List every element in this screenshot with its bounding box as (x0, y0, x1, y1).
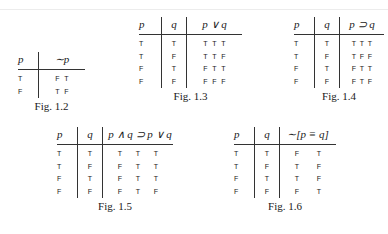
cell-p: T (57, 161, 78, 174)
cell-value: T (210, 51, 219, 64)
cell-q: F (78, 161, 103, 174)
cell-q: T (315, 63, 340, 76)
cell-value: F (366, 76, 374, 89)
truth-table-fig-1-3: p q p ∨ q T T TTT T F TTF F T FTT F F FF… (139, 17, 242, 102)
table-row: F TF (18, 86, 85, 99)
truth-table: p q p ⊃ q T T TTT T F TFF F T FTT F F FT… (294, 17, 384, 88)
cell-p: F (234, 173, 255, 186)
cell-value: T (308, 186, 330, 199)
truth-table-fig-1-5: p q p ∧ q ⊃ p ∨ q T T TTT T F FTT F T FT… (57, 127, 173, 212)
cell-q: T (162, 63, 187, 76)
cell-p: F (139, 63, 162, 76)
header-result: ∼[p ≡ q] (280, 127, 337, 145)
cell-value: F (358, 51, 366, 64)
header-p: p (139, 17, 162, 35)
cell-value: F (350, 63, 358, 76)
cell-value: T (219, 38, 228, 51)
cell-result: FTT (103, 161, 174, 174)
truth-table: p q p ∨ q T T TTT T F TTF F T FTT F F FF… (139, 17, 242, 88)
table-row: F F FFF (139, 76, 242, 89)
cell-value: T (350, 51, 358, 64)
cell-value: T (53, 86, 62, 99)
cell-p: F (57, 186, 78, 199)
page-edge-line (0, 9, 388, 10)
cell-value: T (366, 38, 374, 51)
truth-table-fig-1-6: p q ∼[p ≡ q] T T FT T F TF F T TF F F FT… (234, 127, 336, 212)
cell-p: F (294, 76, 315, 89)
figure-caption: Fig. 1.4 (294, 90, 384, 102)
cell-value: T (286, 173, 308, 186)
cell-value: F (147, 186, 165, 199)
cell-result: TTF (187, 51, 243, 64)
cell-value: F (366, 51, 374, 64)
figure-caption: Fig. 1.5 (57, 200, 173, 212)
cell-result: FTT (187, 63, 243, 76)
header-q: q (315, 17, 340, 35)
cell-value: T (129, 186, 147, 199)
cell-value: F (308, 161, 330, 174)
header-q: q (255, 127, 280, 145)
cell-value: F (219, 76, 228, 89)
cell-value: T (129, 148, 147, 161)
cell-value: T (147, 161, 165, 174)
table-row: T T TTT (294, 35, 384, 51)
cell-value: T (358, 38, 366, 51)
cell-q: T (78, 145, 103, 161)
cell-value: T (286, 161, 308, 174)
cell-value: T (308, 148, 330, 161)
figure-caption: Fig. 1.6 (234, 200, 336, 212)
table-row: F F FTF (57, 186, 173, 199)
table-row: F T FTT (294, 63, 384, 76)
cell-value: T (129, 161, 147, 174)
cell-result: TTT (103, 145, 174, 161)
cell-p: T (234, 145, 255, 161)
cell-p: T (294, 35, 315, 51)
header-result: p ∧ q ⊃ p ∨ q (103, 127, 174, 145)
table-row: F F FTF (294, 76, 384, 89)
cell-result: FTT (340, 63, 385, 76)
cell-value: F (111, 161, 129, 174)
table-row: T F TTF (139, 51, 242, 64)
cell-q: F (255, 161, 280, 174)
cell-p: T (234, 161, 255, 174)
cell-value: F (286, 186, 308, 199)
cell-value: T (147, 148, 165, 161)
table-row: F T TF (234, 173, 336, 186)
cell-result: FTF (103, 186, 174, 199)
cell-q: F (162, 51, 187, 64)
cell-value: T (366, 63, 374, 76)
cell-p: T (139, 51, 162, 64)
cell-p: F (294, 63, 315, 76)
cell-value: T (129, 173, 147, 186)
header-p: p (57, 127, 78, 145)
table-row: T F FTT (57, 161, 173, 174)
cell-value: F (111, 186, 129, 199)
table-row: F F FT (234, 186, 336, 199)
cell-result: FTT (103, 173, 174, 186)
table-row: F T FTT (57, 173, 173, 186)
cell-result: TF (39, 86, 86, 99)
cell-q: T (315, 35, 340, 51)
cell-value: F (286, 148, 308, 161)
cell-result: FT (280, 186, 337, 199)
cell-value: T (62, 73, 71, 86)
cell-result: FT (280, 145, 337, 161)
figure-caption: Fig. 1.3 (139, 90, 242, 102)
truth-table-fig-1-4: p q p ⊃ q T T TTT T F TFF F T FTT F F FT… (294, 17, 384, 102)
cell-result: FTF (340, 76, 385, 89)
figure-caption: Fig. 1.2 (18, 100, 85, 112)
table-row: T FT (18, 70, 85, 86)
cell-q: F (162, 76, 187, 89)
cell-value: F (111, 173, 129, 186)
cell-result: TTT (340, 35, 385, 51)
cell-result: TTT (187, 35, 243, 51)
truth-table-fig-1-2: p ∼p T FT F TF Fig. 1.2 (18, 52, 85, 112)
cell-value: F (350, 76, 358, 89)
cell-p: T (139, 35, 162, 51)
cell-q: F (315, 51, 340, 64)
cell-q: T (162, 35, 187, 51)
header-result: ∼p (39, 52, 86, 70)
table-row: T T TTT (57, 145, 173, 161)
table-row: T F TFF (294, 51, 384, 64)
cell-p: F (18, 86, 39, 99)
